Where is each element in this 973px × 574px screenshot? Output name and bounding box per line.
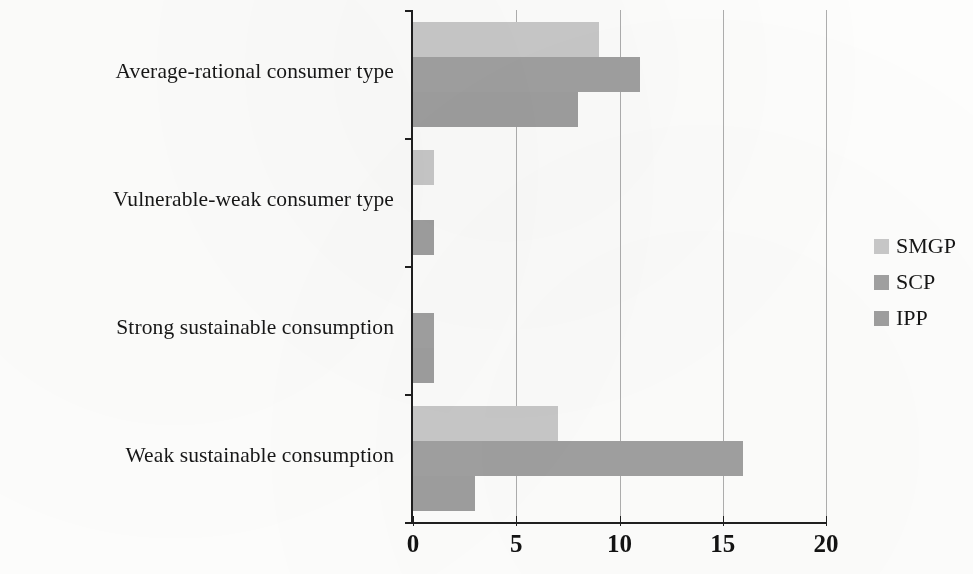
value-axis-tick [723, 516, 724, 526]
value-axis-tick-label: 5 [486, 530, 546, 558]
legend-item: SCP [874, 264, 973, 300]
bar [413, 220, 434, 255]
value-axis-tick-label: 15 [693, 530, 753, 558]
bar [413, 313, 434, 348]
bar [413, 476, 475, 511]
legend-item: IPP [874, 300, 973, 336]
bar-chart: Average-rational consumer typeVulnerable… [0, 0, 973, 574]
plot-area [413, 10, 826, 522]
bar [413, 22, 599, 57]
bar [413, 92, 578, 127]
legend-label: IPP [896, 305, 928, 331]
category-label: Vulnerable-weak consumer type [0, 188, 394, 212]
legend-swatch-icon [874, 239, 889, 254]
bar [413, 150, 434, 185]
category-axis: Average-rational consumer typeVulnerable… [0, 10, 400, 522]
bar [413, 57, 640, 92]
value-axis-tick [516, 516, 517, 526]
value-axis-tick [826, 516, 827, 526]
legend: SMGPSCPIPP [874, 228, 973, 336]
value-axis-tick-label: 10 [590, 530, 650, 558]
legend-label: SMGP [896, 233, 956, 259]
category-axis-tick [405, 522, 413, 524]
legend-swatch-icon [874, 275, 889, 290]
category-axis-tick [405, 10, 413, 12]
value-axis-tick-label: 0 [383, 530, 443, 558]
value-axis-tick [620, 516, 621, 526]
category-axis-tick [405, 138, 413, 140]
value-axis-tick [413, 516, 414, 526]
category-label: Weak sustainable consumption [0, 444, 394, 468]
category-axis-tick [405, 394, 413, 396]
category-label: Strong sustainable consumption [0, 316, 394, 340]
gridline [826, 10, 827, 522]
category-axis-tick [405, 266, 413, 268]
legend-label: SCP [896, 269, 935, 295]
legend-item: SMGP [874, 228, 973, 264]
value-axis-tick-label: 20 [796, 530, 856, 558]
category-label: Average-rational consumer type [0, 60, 394, 84]
legend-swatch-icon [874, 311, 889, 326]
bar [413, 348, 434, 383]
bar [413, 441, 743, 476]
bar [413, 406, 558, 441]
